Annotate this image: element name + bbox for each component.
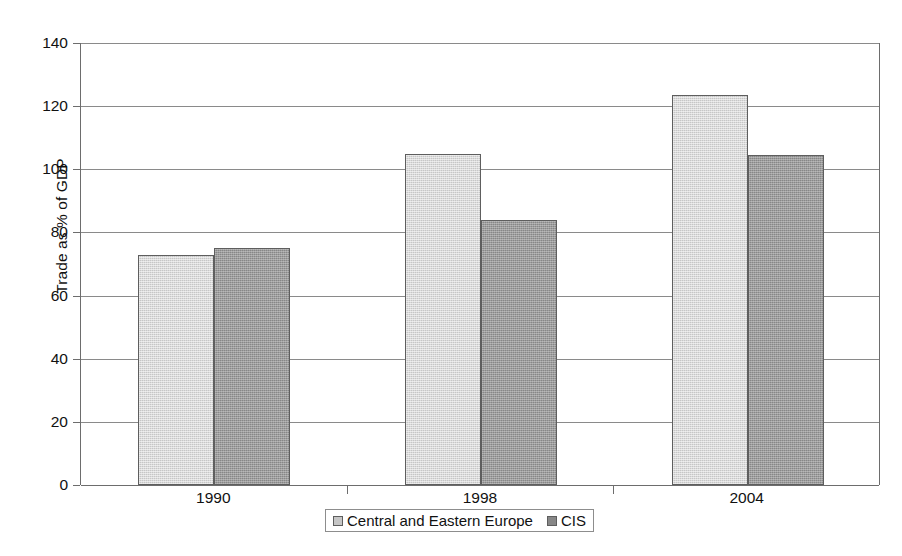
bar-chart: Trade as % of GDP 020406080100120140 199… xyxy=(0,0,902,556)
y-tick-label-80: 80 xyxy=(8,223,68,241)
gridline-0 xyxy=(81,485,879,486)
bar-1998-series-1 xyxy=(481,220,557,485)
y-tick-label-60: 60 xyxy=(8,287,68,305)
bar-2004-series-1 xyxy=(748,155,824,485)
plot-area xyxy=(80,43,880,485)
legend-label-series-0: Central and Eastern Europe xyxy=(347,512,533,529)
y-tick-label-0: 0 xyxy=(8,476,68,494)
bar-1998-series-0 xyxy=(405,154,481,486)
bar-2004-series-0 xyxy=(672,95,748,485)
legend: Central and Eastern Europe CIS xyxy=(325,509,594,532)
y-tick-mark-140 xyxy=(73,43,80,44)
y-tick-label-100: 100 xyxy=(8,160,68,178)
y-tick-mark-0 xyxy=(73,485,80,486)
y-tick-mark-20 xyxy=(73,422,80,423)
legend-entry-central-and-eastern-europe: Central and Eastern Europe xyxy=(333,512,533,529)
y-tick-label-20: 20 xyxy=(8,413,68,431)
y-tick-mark-60 xyxy=(73,296,80,297)
y-tick-mark-120 xyxy=(73,106,80,107)
bar-1990-series-1 xyxy=(214,248,290,485)
gridline-140 xyxy=(81,43,879,44)
legend-swatch-icon-series-0 xyxy=(333,516,343,526)
y-tick-label-40: 40 xyxy=(8,350,68,368)
x-group-separator-tick-2 xyxy=(613,485,614,494)
bar-1990-series-0 xyxy=(138,255,214,485)
gridline-120 xyxy=(81,106,879,107)
y-tick-label-120: 120 xyxy=(8,97,68,115)
legend-swatch-icon-series-1 xyxy=(547,516,557,526)
legend-label-series-1: CIS xyxy=(561,512,586,529)
y-tick-label-140: 140 xyxy=(8,34,68,52)
x-tick-label-2004: 2004 xyxy=(667,489,827,507)
x-tick-label-1990: 1990 xyxy=(133,489,293,507)
legend-entry-cis: CIS xyxy=(547,512,586,529)
y-tick-mark-80 xyxy=(73,232,80,233)
x-tick-label-1998: 1998 xyxy=(400,489,560,507)
x-group-separator-tick-1 xyxy=(347,485,348,494)
y-tick-mark-40 xyxy=(73,359,80,360)
y-tick-mark-100 xyxy=(73,169,80,170)
